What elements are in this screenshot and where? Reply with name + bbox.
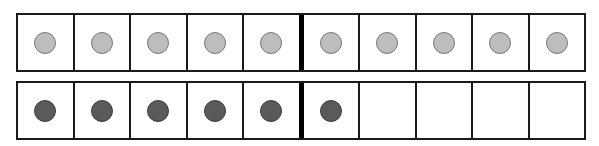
frame-cell xyxy=(18,83,75,138)
light-counter-icon xyxy=(320,32,342,54)
light-counter-icon xyxy=(546,32,568,54)
frame-cell xyxy=(530,15,585,70)
light-counter-icon xyxy=(91,32,113,54)
frame-cell xyxy=(244,83,304,138)
light-counter-icon xyxy=(147,32,169,54)
frame-cell xyxy=(18,15,75,70)
frame-cell xyxy=(360,15,417,70)
empty-frame-cell xyxy=(473,83,530,138)
light-counter-icon xyxy=(204,32,226,54)
empty-frame-cell xyxy=(417,83,474,138)
frame-cell xyxy=(131,83,188,138)
dark-counter-icon xyxy=(320,100,342,122)
dark-counter-icon xyxy=(260,100,282,122)
dark-counter-icon xyxy=(204,100,226,122)
light-counter-icon xyxy=(376,32,398,54)
light-counter-icon xyxy=(34,32,56,54)
frame-cell xyxy=(304,83,361,138)
empty-frame-cell xyxy=(530,83,585,138)
frame-cell xyxy=(188,15,245,70)
dark-counter-icon xyxy=(147,100,169,122)
top-ten-frame xyxy=(16,13,586,72)
dark-counter-icon xyxy=(91,100,113,122)
frame-cell xyxy=(188,83,245,138)
light-counter-icon xyxy=(260,32,282,54)
empty-frame-cell xyxy=(360,83,417,138)
bottom-ten-frame xyxy=(16,81,586,140)
frame-cell xyxy=(304,15,361,70)
light-counter-icon xyxy=(433,32,455,54)
dark-counter-icon xyxy=(34,100,56,122)
frame-cell xyxy=(473,15,530,70)
frame-cell xyxy=(417,15,474,70)
frame-cell xyxy=(75,15,132,70)
light-counter-icon xyxy=(489,32,511,54)
frame-cell xyxy=(75,83,132,138)
frame-cell xyxy=(244,15,304,70)
frame-cell xyxy=(131,15,188,70)
